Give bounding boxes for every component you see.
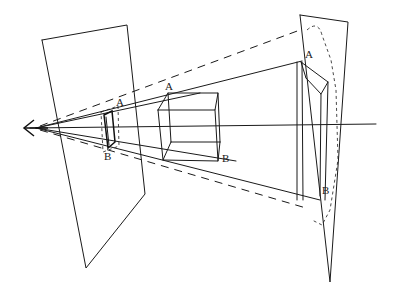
- visual-rays: [36, 61, 320, 200]
- cube: [158, 93, 220, 161]
- cube-top-label: A: [165, 80, 173, 92]
- line-of-sight: [30, 124, 376, 128]
- near-bottom-label: B: [104, 150, 111, 162]
- cube-bottom-label: B: [222, 152, 229, 164]
- eye-icon: [24, 120, 48, 136]
- near-picture-plane: [42, 25, 145, 268]
- far-image: [297, 26, 338, 225]
- far-top-label: A: [305, 48, 313, 60]
- diagram-canvas: A B A B A B: [0, 0, 394, 300]
- far-bottom-label: B: [322, 184, 329, 196]
- perspective-diagram: A B A B A B: [0, 0, 394, 300]
- near-top-label: A: [116, 96, 124, 108]
